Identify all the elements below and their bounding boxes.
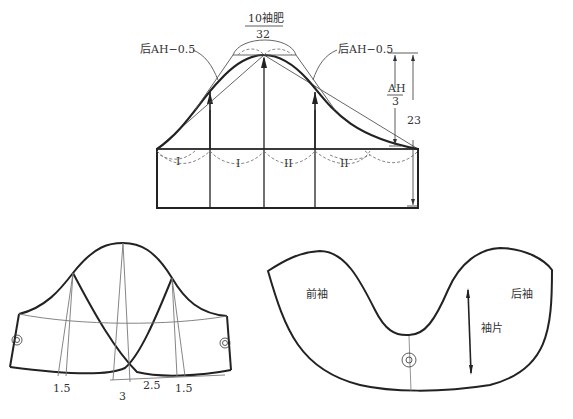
- mark-1: I: [176, 155, 180, 168]
- label-dim-2-5: 2.5: [143, 379, 161, 392]
- bottom-left-sleeve-split: 1.5 3 2.5 1.5: [10, 243, 231, 403]
- label-sleeve-width-title: 10袖肥: [248, 11, 284, 25]
- label-dim-right-1-5: 1.5: [175, 382, 193, 395]
- label-back-sleeve: 后袖: [511, 287, 533, 301]
- label-sleeve-piece: 袖片: [481, 321, 503, 335]
- label-ah-divisor: 3: [392, 95, 399, 108]
- label-ah: AH: [387, 82, 406, 95]
- mark-3: II: [284, 157, 293, 170]
- mark-2: I: [236, 157, 240, 170]
- label-dim-center-3: 3: [119, 390, 126, 403]
- label-back-ah-left: 后AH−0.5: [140, 43, 195, 56]
- label-front-sleeve: 前袖: [306, 287, 328, 301]
- sleeve-pattern-diagram: I I II II 10袖肥 32 后AH−0.5 后AH−0.5 AH 3 2…: [0, 0, 573, 419]
- mark-4: II: [340, 157, 349, 170]
- bottom-right-sleeve-piece: 前袖 后袖 袖片: [268, 248, 552, 391]
- label-sleeve-width-value: 32: [256, 28, 270, 41]
- grainline-arrow: [468, 290, 471, 373]
- label-back-ah-right: 后AH−0.5: [338, 43, 393, 56]
- label-dim-left-1-5: 1.5: [53, 382, 71, 395]
- top-sleeve-draft: I I II II 10袖肥 32 后AH−0.5 后AH−0.5 AH 3 2…: [140, 11, 421, 208]
- label-height-23: 23: [407, 114, 421, 127]
